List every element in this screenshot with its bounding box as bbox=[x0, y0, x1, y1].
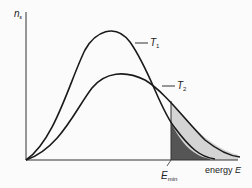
emin-label: Emin bbox=[161, 171, 177, 182]
y-axis-label: nε bbox=[14, 9, 22, 20]
emin-tick bbox=[167, 160, 171, 166]
curve-t1-label: T1 bbox=[150, 38, 159, 49]
energy-distribution-diagram bbox=[0, 0, 252, 188]
x-axis-label: energy E bbox=[205, 166, 241, 175]
curve-t2-label: T2 bbox=[177, 81, 186, 92]
